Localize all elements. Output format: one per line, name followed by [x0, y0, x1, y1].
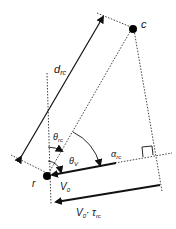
geometry-diagram: c r drc θrc θV αrc V0 V0· τrc	[0, 0, 176, 229]
point-c-label: c	[141, 18, 147, 30]
alpha-rc-label: αrc	[111, 149, 121, 160]
d-rc-tick-bottom	[11, 155, 45, 172]
theta-rc-label: θrc	[53, 132, 63, 143]
displacement-label: V0· τrc	[76, 207, 101, 219]
point-r-label: r	[32, 178, 36, 189]
d-rc-arrow	[21, 17, 103, 157]
c-projection-line	[134, 30, 162, 191]
displacement-arrow	[56, 185, 160, 202]
point-c-dot	[129, 25, 137, 33]
velocity-direction-line	[115, 153, 172, 163]
theta-v-label: θV	[69, 156, 79, 167]
point-r-dot	[43, 172, 51, 180]
vertical-reference-line	[47, 73, 51, 204]
d-rc-tick-top	[97, 13, 131, 27]
velocity-label: V0	[60, 181, 71, 193]
diagram-svg: c r drc θrc θV αrc V0 V0· τrc	[0, 0, 176, 229]
d-rc-label: drc	[54, 63, 66, 76]
velocity-arrow	[52, 163, 116, 175]
right-angle-marker	[142, 146, 153, 157]
theta-rc-arc	[48, 147, 62, 151]
